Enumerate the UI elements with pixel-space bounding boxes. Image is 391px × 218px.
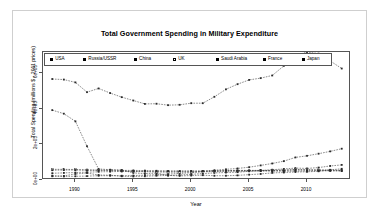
data-point-marker (63, 172, 65, 174)
data-point-marker (51, 109, 53, 111)
data-point-marker (318, 167, 320, 169)
y-axis-tickmark (39, 108, 42, 109)
legend-item-label: Japan (307, 57, 320, 62)
data-point-marker (75, 82, 77, 84)
data-point-marker (51, 169, 53, 171)
legend-item-label: Saudi Arabia (221, 57, 247, 62)
data-point-marker (179, 170, 181, 172)
y-axis-tick-label: 0e+00 (33, 168, 38, 190)
x-axis-tick-label: 1995 (120, 187, 144, 192)
data-point-marker (75, 175, 77, 177)
data-point-marker (260, 173, 262, 175)
data-point-marker (260, 165, 262, 167)
data-point-marker (144, 170, 146, 172)
legend-item-label: France (268, 57, 282, 62)
legend-swatch-icon (263, 58, 266, 61)
y-axis-tickmark (39, 72, 42, 73)
data-point-marker (329, 150, 331, 152)
data-point-marker (63, 169, 65, 171)
y-axis-tick-label: 2e+05 (33, 132, 38, 154)
data-point-marker (318, 153, 320, 155)
legend-swatch-icon (50, 58, 53, 61)
data-point-marker (295, 170, 297, 172)
data-point-marker (98, 88, 100, 90)
x-axis-tickmark (190, 179, 191, 182)
series-line-russia-ussr (52, 110, 341, 175)
data-point-marker (98, 174, 100, 176)
y-axis-tick-label: 4e+05 (33, 96, 38, 118)
data-point-marker (202, 102, 204, 104)
figure-frame: Total Government Spending in Military Ex… (12, 10, 367, 198)
legend-item-russia-ussr: Russia/USSR (83, 57, 134, 62)
data-point-marker (63, 79, 65, 81)
data-point-marker (202, 170, 204, 172)
y-axis-tickmark (39, 143, 42, 144)
data-point-marker (190, 102, 192, 104)
x-axis-tickmark (74, 179, 75, 182)
data-point-marker (51, 78, 53, 80)
data-point-marker (86, 145, 88, 147)
plot-area (42, 51, 350, 179)
data-point-marker (132, 176, 134, 178)
data-point-marker (271, 172, 273, 174)
data-point-marker (260, 170, 262, 172)
data-point-marker (121, 171, 123, 173)
data-point-marker (190, 175, 192, 177)
x-axis-tickmark (248, 179, 249, 182)
data-point-marker (179, 104, 181, 106)
data-point-marker (202, 174, 204, 176)
data-point-marker (237, 170, 239, 172)
data-point-marker (63, 175, 65, 177)
series-line-china (52, 149, 341, 177)
legend-item-uk: UK (173, 57, 216, 62)
data-point-marker (63, 113, 65, 115)
data-point-marker (167, 104, 169, 106)
data-point-marker (156, 170, 158, 172)
data-point-marker (295, 157, 297, 159)
x-axis-tickmark (306, 179, 307, 182)
data-point-marker (156, 175, 158, 177)
data-point-marker (144, 173, 146, 175)
x-axis-tick-label: 2010 (294, 187, 318, 192)
legend-item-china: China (134, 57, 173, 62)
data-point-marker (51, 172, 53, 174)
x-axis-tickmark (132, 179, 133, 182)
data-point-marker (260, 77, 262, 79)
data-point-marker (109, 92, 111, 94)
data-point-marker (271, 163, 273, 165)
data-point-marker (248, 170, 250, 172)
data-point-marker (225, 170, 227, 172)
legend-swatch-icon (83, 58, 86, 61)
data-point-marker (75, 169, 77, 171)
legend-item-label: UK (178, 57, 184, 62)
chart-legend: USARussia/USSRChinaUKSaudi ArabiaFranceJ… (44, 53, 332, 66)
legend-item-label: USA (55, 57, 64, 62)
legend-item-france: France (263, 57, 302, 62)
data-point-marker (167, 174, 169, 176)
data-point-marker (109, 174, 111, 176)
data-point-marker (121, 96, 123, 98)
data-point-marker (51, 175, 53, 177)
legend-item-label: Russia/USSR (88, 57, 116, 62)
data-point-marker (341, 148, 343, 150)
data-point-marker (86, 91, 88, 93)
data-point-marker (306, 155, 308, 157)
data-point-marker (86, 171, 88, 173)
y-axis-tick-label: 6e+05 (33, 61, 38, 83)
data-point-marker (156, 103, 158, 105)
data-point-marker (237, 168, 239, 170)
data-point-marker (341, 164, 343, 166)
data-point-marker (248, 166, 250, 168)
data-point-marker (109, 171, 111, 173)
data-point-marker (86, 175, 88, 177)
data-point-marker (132, 170, 134, 172)
legend-swatch-icon (302, 58, 305, 61)
legend-item-japan: Japan (302, 57, 331, 62)
series-lines (43, 52, 350, 179)
data-point-marker (190, 170, 192, 172)
legend-item-usa: USA (50, 57, 83, 62)
data-point-marker (75, 120, 77, 122)
data-point-marker (248, 79, 250, 81)
data-point-marker (237, 83, 239, 85)
legend-swatch-icon (134, 58, 137, 61)
